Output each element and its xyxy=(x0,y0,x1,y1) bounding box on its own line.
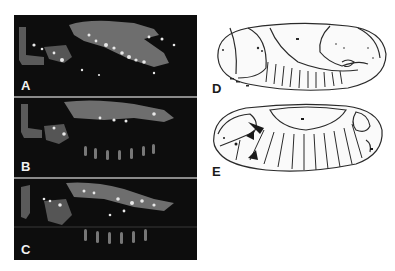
panel-label-b: B xyxy=(21,160,30,173)
micrograph-panel-b: B xyxy=(14,98,197,177)
micrograph-a-image xyxy=(14,15,197,96)
micrograph-panel-a: A xyxy=(14,15,197,96)
embryo-drawing-d xyxy=(208,18,393,94)
panel-label-c: C xyxy=(21,243,30,256)
panel-label-a: A xyxy=(21,79,30,92)
micrograph-panel-c: C xyxy=(14,179,197,260)
micrograph-b-image xyxy=(14,98,197,177)
embryo-drawing-e xyxy=(206,100,391,178)
micrograph-c-image xyxy=(14,179,197,260)
drawing-label-e: E xyxy=(212,165,221,178)
drawing-label-d: D xyxy=(212,82,221,95)
